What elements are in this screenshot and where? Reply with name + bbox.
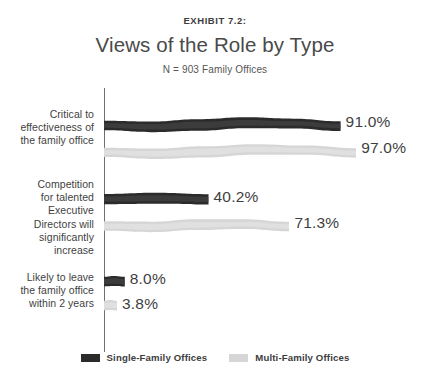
category-label-line: within 2 years <box>0 297 94 310</box>
category-label-likely-to-leave: Likely to leave the family office within… <box>0 271 94 311</box>
category-label-line: Executive <box>0 204 94 217</box>
category-label-line: Critical to <box>0 108 94 121</box>
value-label-single-family-2: 8.0% <box>130 271 166 287</box>
category-label-line: increase <box>0 244 94 257</box>
legend-swatch-single-family <box>81 354 100 362</box>
legend-label-multi-family: Multi-Family Offices <box>255 352 349 364</box>
exhibit-label: EXHIBIT 7.2: <box>0 14 430 28</box>
category-label-line: significantly <box>0 231 94 244</box>
legend-label-single-family: Single-Family Offices <box>107 352 208 364</box>
chart-title: Views of the Role by Type <box>0 31 430 59</box>
value-label-single-family-1: 40.2% <box>214 189 259 205</box>
category-label-line: Directors will <box>0 218 94 231</box>
chart-subtitle: N = 903 Family Offices <box>0 63 430 77</box>
category-label-line: effectiveness of <box>0 121 94 134</box>
bar-single-family-0 <box>104 116 341 134</box>
category-label-line: the family office <box>0 134 94 147</box>
category-label-competition-talent: Competition for talented Executive Direc… <box>0 178 94 257</box>
legend-item-single-family[interactable]: Single-Family Offices <box>81 352 208 364</box>
category-label-line: Competition <box>0 178 94 191</box>
value-label-multi-family-0: 97.0% <box>361 140 406 156</box>
legend-item-multi-family[interactable]: Multi-Family Offices <box>229 352 349 364</box>
category-axis-line <box>104 88 105 352</box>
bar-multi-family-2 <box>104 297 117 314</box>
chart-legend: Single-Family Offices Multi-Family Offic… <box>0 352 430 364</box>
value-label-multi-family-2: 3.8% <box>122 296 158 312</box>
value-label-single-family-0: 91.0% <box>346 114 391 130</box>
bar-single-family-1 <box>104 190 209 208</box>
category-label-line: the family office <box>0 284 94 297</box>
bar-single-family-2 <box>104 273 125 290</box>
legend-swatch-multi-family <box>229 354 248 362</box>
bar-multi-family-1 <box>104 217 289 234</box>
chart-container: EXHIBIT 7.2: Views of the Role by Type N… <box>0 0 430 77</box>
category-label-critical-effectiveness: Critical to effectiveness of the family … <box>0 108 94 148</box>
chart-header: EXHIBIT 7.2: Views of the Role by Type N… <box>0 0 430 77</box>
category-label-line: Likely to leave <box>0 271 94 284</box>
value-label-multi-family-1: 71.3% <box>294 215 339 231</box>
category-label-line: for talented <box>0 191 94 204</box>
bar-multi-family-0 <box>104 143 356 160</box>
